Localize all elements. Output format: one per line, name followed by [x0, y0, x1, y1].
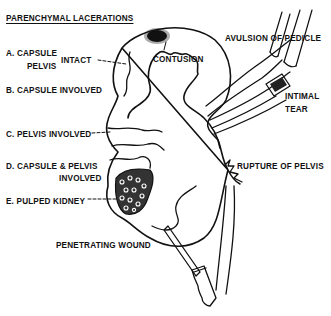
pulped-kidney-mass [115, 169, 153, 214]
label-a-capsule: A. CAPSULE [6, 47, 57, 58]
renal-vessel-lower [210, 72, 290, 120]
leader-contusion [164, 42, 166, 50]
label-d-capsule-pelvis: D. CAPSULE & PELVIS [6, 160, 98, 171]
leader-intact [98, 60, 126, 64]
label-intimal: INTIMAL [285, 90, 319, 101]
label-a-pelvis: PELVIS [27, 60, 56, 71]
renal-vessel-upper [206, 40, 290, 106]
label-tear: TEAR [285, 103, 308, 114]
label-c-pelvis-involved: C. PELVIS INVOLVED [6, 128, 91, 139]
label-b-capsule-involved: B. CAPSULE INVOLVED [6, 84, 102, 95]
label-d-involved: INVOLVED [59, 172, 102, 183]
kidney-injury-diagram: PARENCHYMAL LACERATIONS A. CAPSULE PELVI… [0, 0, 331, 316]
diagram-title: PARENCHYMAL LACERATIONS [6, 12, 133, 23]
laceration-c [108, 128, 162, 132]
label-e-pulped-kidney: E. PULPED KIDNEY [6, 195, 85, 206]
label-contusion: CONTUSION [153, 53, 204, 64]
label-rupture-of-pelvis: RUPTURE OF PELVIS [237, 160, 324, 171]
laceration-d [110, 157, 150, 168]
kidney-sinus-contour [128, 52, 220, 148]
label-a-intact: INTACT [61, 54, 91, 65]
label-penetrating-wound: PENETRATING WOUND [56, 239, 151, 250]
label-avulsion-of-pedicle: AVULSION OF PEDICLE [225, 32, 321, 43]
laceration-a [124, 52, 130, 96]
